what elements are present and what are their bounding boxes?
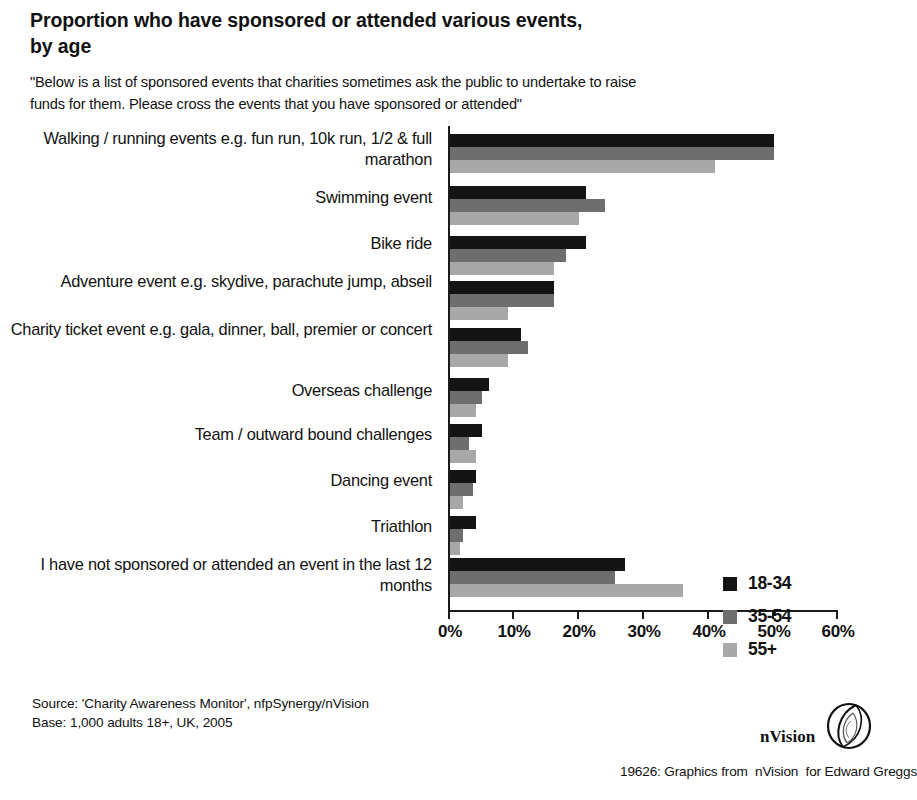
bar-35-54-7 [450, 483, 473, 496]
x-axis-tick [448, 610, 450, 619]
legend-label: 55+ [748, 639, 777, 660]
legend-item-18-34: 18-34 [723, 567, 863, 600]
legend-item-55-plus: 55+ [723, 633, 863, 666]
category-label: Bike ride [8, 233, 432, 254]
chart-legend: 18-34 35-54 55+ [723, 567, 863, 666]
credit-line: 19626: Graphics from nVision for Edward … [620, 764, 917, 779]
bar-55+-8 [450, 542, 460, 555]
x-axis-tick-label: 20% [549, 622, 609, 642]
bar-55+-6 [450, 450, 476, 463]
bar-35-54-1 [450, 199, 605, 212]
bar-35-54-2 [450, 249, 566, 262]
bar-35-54-4 [450, 341, 528, 354]
x-axis-tick [642, 610, 644, 619]
bar-18-34-7 [450, 470, 476, 483]
bar-18-34-8 [450, 516, 476, 529]
category-label: I have not sponsored or attended an even… [8, 554, 432, 596]
category-label: Charity ticket event e.g. gala, dinner, … [8, 319, 432, 340]
bar-18-34-5 [450, 378, 489, 391]
source-note: Source: 'Charity Awareness Monitor', nfp… [32, 694, 369, 733]
category-label: Triathlon [8, 516, 432, 537]
bar-series-container [450, 126, 850, 610]
legend-swatch-icon [723, 643, 737, 657]
x-axis-tick-label: 30% [614, 622, 674, 642]
nvision-logo: nVision [760, 700, 880, 756]
category-label: Team / outward bound challenges [8, 424, 432, 445]
nvision-logo-icon [826, 702, 872, 750]
bar-35-54-6 [450, 437, 469, 450]
chart-subtitle: "Below is a list of sponsored events tha… [30, 72, 670, 116]
bar-18-34-2 [450, 236, 586, 249]
legend-label: 35-54 [748, 606, 791, 627]
x-axis-tick-label: 10% [484, 622, 544, 642]
page-title: Proportion who have sponsored or attende… [30, 8, 590, 59]
bar-35-54-9 [450, 571, 615, 584]
bar-18-34-0 [450, 134, 774, 147]
legend-swatch-icon [723, 577, 737, 591]
bar-55+-2 [450, 262, 554, 275]
bar-18-34-1 [450, 186, 586, 199]
category-label: Overseas challenge [8, 380, 432, 401]
bar-35-54-5 [450, 391, 482, 404]
x-axis-tick [512, 610, 514, 619]
legend-label: 18-34 [748, 573, 791, 594]
bar-18-34-6 [450, 424, 482, 437]
x-axis-tick [577, 610, 579, 619]
category-label: Swimming event [8, 187, 432, 208]
source-line: Source: 'Charity Awareness Monitor', nfp… [32, 694, 369, 713]
bar-55+-1 [450, 212, 579, 225]
bar-55+-7 [450, 496, 463, 509]
category-axis-labels: Walking / running events e.g. fun run, 1… [8, 126, 440, 610]
bar-18-34-4 [450, 328, 521, 341]
bar-55+-5 [450, 404, 476, 417]
legend-swatch-icon [723, 610, 737, 624]
bar-35-54-8 [450, 529, 463, 542]
x-axis-tick [707, 610, 709, 619]
bar-55+-3 [450, 307, 508, 320]
bar-18-34-3 [450, 281, 554, 294]
bar-35-54-3 [450, 294, 554, 307]
bar-55+-0 [450, 160, 715, 173]
logo-wordmark: nVision [760, 727, 815, 747]
x-axis-tick-label: 0% [420, 622, 480, 642]
bar-55+-9 [450, 584, 683, 597]
category-label: Adventure event e.g. skydive, parachute … [8, 271, 432, 292]
legend-item-35-54: 35-54 [723, 600, 863, 633]
bar-18-34-9 [450, 558, 625, 571]
bar-55+-4 [450, 354, 508, 367]
category-label: Walking / running events e.g. fun run, 1… [8, 128, 432, 170]
base-line: Base: 1,000 adults 18+, UK, 2005 [32, 713, 369, 732]
chart-plot-area: Walking / running events e.g. fun run, 1… [0, 126, 888, 616]
bar-35-54-0 [450, 147, 774, 160]
category-label: Dancing event [8, 470, 432, 491]
